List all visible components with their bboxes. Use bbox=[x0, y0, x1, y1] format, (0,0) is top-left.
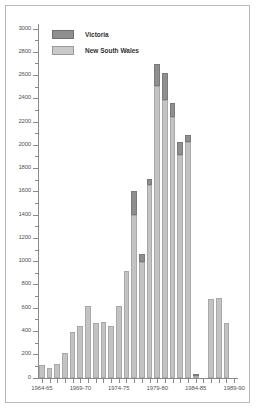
bar-segment-victoria bbox=[170, 103, 176, 116]
x-axis-tick bbox=[134, 379, 135, 383]
x-axis-tick bbox=[211, 379, 212, 383]
bar-group[interactable] bbox=[124, 24, 130, 378]
x-axis-tick bbox=[57, 379, 58, 383]
legend-swatch-nsw bbox=[52, 46, 74, 55]
bar-segment-victoria bbox=[131, 191, 137, 215]
x-axis-tick bbox=[142, 379, 143, 383]
x-axis-tick bbox=[234, 379, 235, 383]
bar-segment-new-south-wales bbox=[154, 86, 160, 378]
x-axis-tick bbox=[173, 379, 174, 383]
x-axis-tick bbox=[73, 379, 74, 383]
y-axis-tick-label: 2000 bbox=[18, 141, 31, 148]
bar-group[interactable] bbox=[162, 24, 168, 378]
legend-swatch-vic bbox=[52, 30, 74, 39]
x-axis-tick bbox=[226, 379, 227, 383]
bar-segment-new-south-wales bbox=[162, 100, 168, 378]
bar-segment-new-south-wales bbox=[93, 323, 99, 378]
bar-segment-new-south-wales bbox=[70, 332, 76, 378]
bar-segment-new-south-wales bbox=[224, 323, 230, 378]
bar-group[interactable] bbox=[224, 24, 230, 378]
bar-segment-new-south-wales bbox=[131, 215, 137, 378]
bar-segment-victoria bbox=[185, 135, 191, 142]
bar-group[interactable] bbox=[47, 24, 53, 378]
bar-group[interactable] bbox=[62, 24, 68, 378]
bar-group[interactable] bbox=[216, 24, 222, 378]
x-axis-tick-label: 1969-70 bbox=[70, 385, 91, 391]
bar-segment-new-south-wales bbox=[216, 298, 222, 378]
bar-group[interactable] bbox=[101, 24, 107, 378]
x-axis-tick bbox=[88, 379, 89, 383]
y-axis-tick-label: 400 bbox=[22, 327, 31, 334]
x-axis-tick bbox=[96, 379, 97, 383]
legend-item[interactable]: Victoria bbox=[52, 27, 139, 41]
bar-group[interactable] bbox=[39, 24, 45, 378]
x-axis-tick bbox=[42, 379, 43, 383]
bar-group[interactable] bbox=[77, 24, 83, 378]
bar-group[interactable] bbox=[70, 24, 76, 378]
bar-segment-new-south-wales bbox=[47, 368, 53, 378]
x-axis-tick-label: 1964-65 bbox=[31, 385, 52, 391]
bar-segment-new-south-wales bbox=[85, 306, 91, 378]
bar-segment-victoria bbox=[177, 142, 183, 155]
x-axis-tick bbox=[188, 379, 189, 383]
bar-group[interactable] bbox=[170, 24, 176, 378]
bar-segment-victoria bbox=[147, 179, 153, 185]
y-axis-tick-label: 3000 bbox=[18, 25, 31, 32]
x-axis-tick bbox=[103, 379, 104, 383]
x-axis-tick bbox=[219, 379, 220, 383]
bar-group[interactable] bbox=[108, 24, 114, 378]
y-axis-tick-label: 2200 bbox=[18, 118, 31, 125]
bar-group[interactable] bbox=[208, 24, 214, 378]
y-axis-tick-label: 1000 bbox=[18, 257, 31, 264]
bar-group[interactable] bbox=[154, 24, 160, 378]
x-axis-tick-label: 1984-85 bbox=[185, 385, 206, 391]
x-axis-tick bbox=[165, 379, 166, 383]
x-axis-tick-label: 1989-90 bbox=[223, 385, 244, 391]
bar-segment-new-south-wales bbox=[62, 353, 68, 378]
bar-group[interactable] bbox=[139, 24, 145, 378]
bar-segment-victoria bbox=[162, 73, 168, 100]
bar-segment-new-south-wales bbox=[139, 262, 145, 378]
bar-group[interactable] bbox=[131, 24, 137, 378]
y-axis-tick-label: 1400 bbox=[18, 211, 31, 218]
y-axis-tick-label: 2800 bbox=[18, 48, 31, 55]
bar-segment-victoria bbox=[139, 254, 145, 262]
y-axis-tick-label: 1800 bbox=[18, 164, 31, 171]
bar-group[interactable] bbox=[177, 24, 183, 378]
bar-segment-new-south-wales bbox=[101, 322, 107, 378]
x-axis-tick bbox=[111, 379, 112, 383]
bar-segment-new-south-wales bbox=[208, 299, 214, 378]
bar-segment-new-south-wales bbox=[77, 326, 83, 378]
bar-segment-new-south-wales bbox=[124, 271, 130, 378]
x-axis-tick bbox=[65, 379, 66, 383]
y-axis-tick-label: 0 bbox=[28, 374, 31, 381]
bar-group[interactable] bbox=[193, 24, 199, 378]
y-axis-tick-label: 200 bbox=[22, 350, 31, 357]
legend-label: New South Wales bbox=[85, 47, 139, 54]
bar-segment-new-south-wales bbox=[108, 326, 114, 378]
x-axis-tick-label: 1979-80 bbox=[147, 385, 168, 391]
bar-group[interactable] bbox=[147, 24, 153, 378]
bar-segment-new-south-wales bbox=[147, 185, 153, 378]
bar-group[interactable] bbox=[54, 24, 60, 378]
bar-segment-new-south-wales bbox=[54, 364, 60, 378]
bar-segment-new-south-wales bbox=[39, 365, 45, 378]
x-axis-tick-label: 1974-75 bbox=[108, 385, 129, 391]
x-axis-tick bbox=[80, 379, 81, 383]
bar-segment-new-south-wales bbox=[170, 117, 176, 378]
bar-group[interactable] bbox=[116, 24, 122, 378]
y-axis-tick-label: 1600 bbox=[18, 187, 31, 194]
x-axis-tick bbox=[203, 379, 204, 383]
legend-item[interactable]: New South Wales bbox=[52, 43, 139, 57]
bar-segment-new-south-wales bbox=[193, 376, 199, 378]
bar-group[interactable] bbox=[85, 24, 91, 378]
bar-segment-victoria bbox=[154, 64, 160, 86]
x-axis-line bbox=[38, 378, 238, 379]
y-axis-tick-label: 2400 bbox=[18, 94, 31, 101]
x-axis-tick bbox=[50, 379, 51, 383]
bar-segment-new-south-wales bbox=[185, 142, 191, 378]
bar-group[interactable] bbox=[185, 24, 191, 378]
bar-group[interactable] bbox=[93, 24, 99, 378]
x-axis-tick bbox=[180, 379, 181, 383]
bar-segment-new-south-wales bbox=[116, 306, 122, 378]
